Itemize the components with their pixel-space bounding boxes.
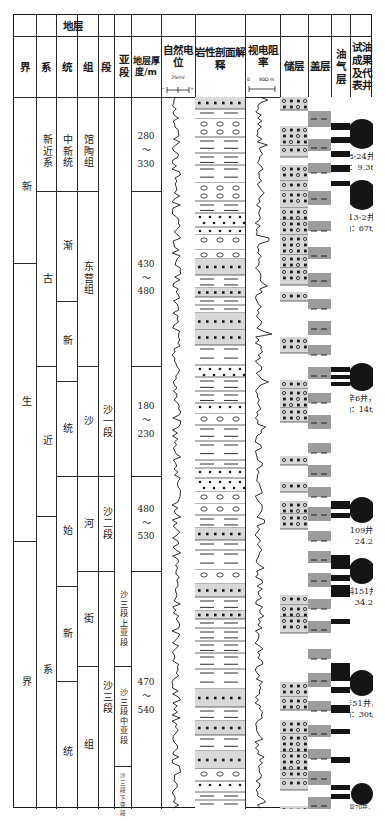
oil-band-4	[331, 181, 350, 186]
well-rate-0: 油：9.3t/d	[350, 162, 373, 173]
well-label-5: 辛51井，油：30t/d	[350, 698, 373, 720]
strat-label-xi-3: 系	[41, 664, 52, 676]
strat-cell-duan-0: 沙一段	[98, 366, 114, 476]
header-zu: 组	[77, 36, 98, 97]
reservoir-panel	[280, 97, 308, 809]
well-marker-dot-3	[350, 497, 373, 523]
thickness-line-3-1: ～	[142, 517, 151, 531]
strat-label-tong-4: 始	[61, 525, 72, 537]
seal-band-12	[308, 415, 331, 429]
strat-label-yaduan-1: 沙三段中亚段	[118, 688, 127, 745]
oil-band-3	[331, 165, 350, 172]
header-thickness: 地层厚度/m	[131, 36, 161, 97]
well-group: 营8-24井，油：9.3t/d营13-2井，油：67t/d辛6井，油：14t/d…	[350, 97, 373, 809]
well-label-0: 营8-24井，油：9.3t/d	[350, 151, 373, 173]
oil-band-19	[331, 785, 350, 790]
well-rate-3: 油：24.2t/d	[350, 536, 373, 547]
well-marker-dot-0	[350, 119, 373, 149]
strat-label-tong-3: 统	[61, 423, 72, 435]
well-name-3: 辛109井，	[350, 525, 373, 536]
table-frame: 地层 界 系 统 组 段 亚段 地层厚度/m 自然电位 岩性剖面解释 视电阻率 …	[13, 14, 372, 808]
seal-band-9	[308, 345, 331, 355]
oil-band-20	[331, 794, 350, 799]
strat-cell-yaduan-2: 沙三段下亚段	[114, 766, 131, 822]
header-res: 视电阻率	[245, 36, 280, 76]
strat-cell-tong-6: 统	[56, 681, 77, 822]
oil-band-group	[331, 97, 350, 809]
resistivity-curve-panel	[245, 97, 280, 809]
thickness-cell-0: 280～330	[131, 111, 161, 191]
oil-band-13	[331, 619, 350, 624]
seal-band-18	[308, 551, 331, 563]
strat-cell-zu-1: 东营组	[77, 191, 98, 366]
oil-band-16	[331, 705, 350, 713]
seal-band-10	[308, 367, 331, 379]
well-rate-5: 油：30t/d	[350, 709, 373, 720]
header-jie: 界	[14, 36, 36, 97]
header-test: 试油成果及代表井	[350, 36, 373, 97]
seal-band-23	[308, 673, 331, 687]
res-scale: 0 80Ω·m	[247, 77, 279, 97]
strat-label-jie-1: 生	[20, 396, 31, 408]
seal-band-26	[308, 749, 331, 759]
res-scale-max: 80Ω·m	[259, 77, 274, 82]
oil-band-5	[331, 367, 350, 372]
strat-label-duan-1: 沙二段	[101, 506, 112, 541]
well-name-6: 营70井，	[350, 804, 373, 809]
strat-label-zu-3: 河	[82, 518, 93, 530]
strat-cell-duan-1: 沙二段	[98, 476, 114, 571]
strat-label-zu-5: 组	[82, 739, 93, 751]
thickness-line-3-2: 530	[137, 530, 154, 544]
strat-cell-tong-1: 渐	[56, 191, 77, 301]
well-label-6: 营70井，油：18.4t/d	[350, 804, 373, 809]
strat-label-duan-2: 沙三段	[101, 680, 112, 715]
seal-band-21	[308, 621, 331, 633]
thickness-cell-3: 480～530	[131, 476, 161, 571]
res-scale-bar-icon	[247, 85, 279, 93]
sp-scale-plus: +	[190, 86, 194, 91]
test-results-panel: 营8-24井，油：9.3t/d营13-2井，油：67t/d辛6井，油：14t/d…	[350, 97, 373, 809]
strat-label-tong-0: 中新统	[61, 134, 72, 169]
strat-cell-jie-1: 生	[14, 263, 36, 541]
thickness-line-0-0: 280	[137, 130, 154, 144]
seal-panel	[308, 97, 331, 809]
seal-band-20	[308, 599, 331, 609]
header-yaduan-label: 亚段	[117, 54, 128, 79]
strat-cell-tong-5: 新	[56, 586, 77, 681]
oilgas-panel	[331, 97, 350, 809]
seal-band-16	[308, 507, 331, 521]
well-rate-4: 油：34.2t/d	[350, 597, 373, 608]
strat-label-xi-0: 新近系	[41, 134, 52, 169]
strat-cell-yaduan-0: 沙三段上亚段	[114, 571, 131, 666]
seal-band-24	[308, 701, 331, 711]
oil-band-9	[331, 513, 350, 518]
strat-cell-tong-2: 新	[56, 301, 77, 381]
thickness-line-1-1: ～	[142, 272, 151, 286]
well-label-4: 辛斜151井，油：34.2t/d	[350, 586, 373, 608]
strat-label-duan-0: 沙一段	[101, 404, 112, 439]
thickness-line-4-2: 540	[137, 704, 154, 718]
oil-band-8	[331, 501, 350, 509]
strat-cell-xi-1: 古	[36, 191, 56, 366]
oil-band-18	[331, 757, 350, 763]
thickness-line-2-0: 180	[137, 400, 154, 414]
sp-scale-value: 25mV	[163, 75, 193, 80]
seal-band-17	[308, 531, 331, 541]
seal-band-8	[308, 321, 331, 335]
seal-band-11	[308, 393, 331, 403]
seal-band-14	[308, 465, 331, 477]
oil-band-14	[331, 663, 350, 681]
seal-band-25	[308, 725, 331, 737]
strat-cell-xi-0: 新近系	[36, 111, 56, 191]
well-rate-1: 油：67t/d	[350, 223, 373, 234]
strat-label-tong-1: 渐	[61, 240, 72, 252]
strat-cell-duan-2: 沙三段	[98, 571, 114, 822]
sp-scale-bar-icon	[163, 85, 193, 95]
strat-cell-jie-0: 新	[14, 111, 36, 263]
strat-label-zu-0: 馆陶组	[82, 134, 93, 169]
well-name-2: 辛6井，	[350, 393, 373, 404]
lithology-pattern-icon	[195, 97, 245, 809]
seal-band-group	[308, 97, 331, 809]
header-group-strata: 地层	[14, 15, 131, 36]
strat-cell-xi-3: 系	[36, 516, 56, 822]
